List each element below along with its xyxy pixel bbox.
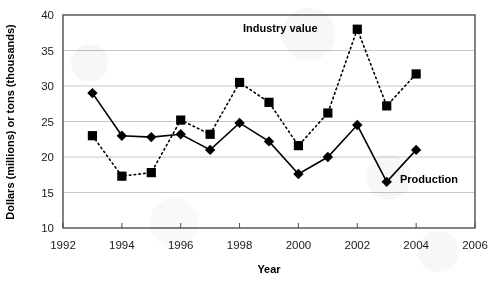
series-annotation-label: Production — [400, 173, 458, 185]
x-axis-tick-label: 1996 — [168, 239, 194, 251]
data-point-square — [88, 131, 97, 140]
data-point-square — [382, 101, 391, 110]
y-axis-tick-label: 40 — [41, 9, 54, 21]
data-point-diamond — [176, 129, 186, 139]
y-axis-tick-label: 30 — [41, 80, 54, 92]
data-point-square — [323, 108, 332, 117]
data-point-square — [294, 141, 303, 150]
series-markers — [87, 25, 421, 187]
x-axis-tick-label: 1998 — [227, 239, 253, 251]
series-line — [92, 29, 416, 176]
x-axis-tick-label: 2002 — [344, 239, 370, 251]
data-point-square — [147, 168, 156, 177]
series-line — [92, 93, 416, 182]
data-point-square — [353, 25, 362, 34]
x-axis-ticks — [63, 223, 475, 228]
series-annotation-label: Industry value — [243, 22, 318, 34]
series-annotations: Industry valueProduction — [243, 22, 458, 185]
chart-container: 10152025303540 1992199419961998200020022… — [0, 0, 498, 286]
line-chart: 10152025303540 1992199419961998200020022… — [0, 0, 498, 286]
data-point-square — [176, 115, 185, 124]
y-axis-tick-label: 10 — [41, 222, 54, 234]
y-axis-title: Dollars (millions) or tons (thousands) — [4, 24, 16, 220]
data-point-square — [264, 98, 273, 107]
data-point-square — [235, 78, 244, 87]
y-axis-tick-label: 20 — [41, 151, 54, 163]
series-lines — [92, 29, 416, 182]
x-axis-tick-label: 1992 — [50, 239, 76, 251]
y-axis-tick-label: 35 — [41, 45, 54, 57]
x-axis-title: Year — [257, 263, 281, 275]
x-axis-tick-labels: 19921994199619982000200220042006 — [50, 239, 488, 251]
data-point-diamond — [146, 132, 156, 142]
data-point-square — [206, 130, 215, 139]
data-point-diamond — [87, 88, 97, 98]
x-axis-tick-label: 2000 — [286, 239, 312, 251]
data-point-square — [412, 69, 421, 78]
data-point-square — [117, 172, 126, 181]
x-axis-tick-label: 2006 — [462, 239, 488, 251]
y-axis-tick-labels: 10152025303540 — [41, 9, 54, 234]
y-axis-tick-label: 15 — [41, 187, 54, 199]
data-point-diamond — [117, 131, 127, 141]
x-axis-tick-label: 2004 — [403, 239, 429, 251]
x-axis-tick-label: 1994 — [109, 239, 135, 251]
y-axis-tick-label: 25 — [41, 116, 54, 128]
